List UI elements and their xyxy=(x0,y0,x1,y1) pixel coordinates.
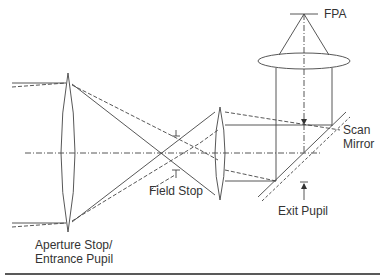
label-aperture-stop-1: Aperture Stop/ xyxy=(35,238,112,252)
objective-lens xyxy=(61,73,75,232)
label-field-stop: Field Stop xyxy=(149,184,203,198)
down-arrow-icon xyxy=(301,119,307,125)
field-stop-marker xyxy=(172,130,180,178)
optical-diagram xyxy=(0,0,383,278)
label-scan-mirror-1: Scan xyxy=(343,123,370,137)
label-aperture-stop-2: Entrance Pupil xyxy=(35,252,113,266)
label-exit-pupil: Exit Pupil xyxy=(278,204,328,218)
label-fpa: FPA xyxy=(324,7,346,21)
label-scan-mirror-2: Mirror xyxy=(343,137,374,151)
up-arrow-icon xyxy=(301,183,307,189)
relay-lens xyxy=(215,107,225,200)
